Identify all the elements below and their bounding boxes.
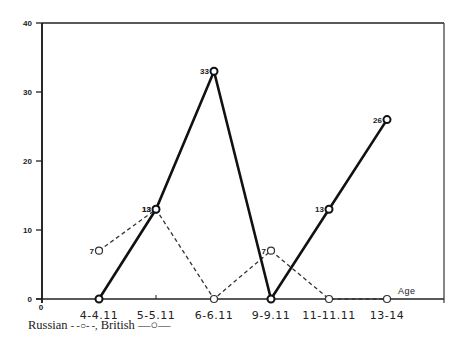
- russian-point-marker: [268, 247, 275, 254]
- point-value-label: 26: [373, 116, 382, 125]
- line-chart: 0102030400 4-4.115-5.116-6.119-9.1111-11…: [0, 0, 465, 345]
- x-tick-label: 11-11.11: [302, 309, 355, 322]
- russian-point-marker: [96, 247, 103, 254]
- y-tick-label: 0: [28, 295, 33, 304]
- point-value-label: 33: [200, 67, 209, 76]
- y-tick-label: 30: [23, 88, 32, 97]
- legend-russian-glyph: - -○- -,: [71, 320, 98, 331]
- x-axis: 4-4.115-5.116-6.119-9.1111-11.1113-14Age: [80, 286, 416, 322]
- legend-british-glyph: —○—: [138, 318, 171, 332]
- x-tick-label: 13-14: [370, 309, 404, 322]
- x-tick-label: 6-6.11: [195, 309, 233, 322]
- british-point-marker: [96, 296, 103, 303]
- point-value-label: 7: [262, 247, 267, 256]
- british-point-marker: [268, 296, 275, 303]
- russian-point-marker: [211, 296, 218, 303]
- y-axis: 0102030400: [23, 19, 44, 312]
- british-point-marker: [326, 206, 333, 213]
- y-tick-label: 40: [23, 19, 32, 28]
- series-british: [96, 68, 391, 303]
- russian-point-marker: [326, 296, 333, 303]
- series-russian: [96, 206, 391, 303]
- russian-point-marker: [384, 296, 391, 303]
- british-point-marker: [153, 206, 160, 213]
- point-value-label: 7: [90, 247, 95, 256]
- legend-russian-label: Russian: [28, 318, 68, 332]
- point-value-label: 13: [142, 205, 151, 214]
- y-tick-label: 10: [23, 226, 32, 235]
- british-point-marker: [384, 116, 391, 123]
- british-point-marker: [211, 68, 218, 75]
- legend: Russian - -○- -, British —○—: [28, 318, 170, 333]
- plot-frame: [36, 23, 444, 303]
- y-tick-label: 20: [23, 157, 32, 166]
- origin-label: 0: [39, 303, 44, 312]
- legend-british-label: British: [101, 318, 135, 332]
- point-value-label: 13: [315, 205, 324, 214]
- x-tick-label: 9-9.11: [252, 309, 290, 322]
- x-axis-title: Age: [398, 286, 416, 296]
